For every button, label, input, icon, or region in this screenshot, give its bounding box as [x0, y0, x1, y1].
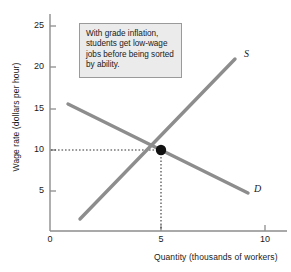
y-tick-label-20: 20: [22, 61, 44, 71]
y-tick-label-5: 5: [22, 185, 44, 195]
supply-curve-label: S: [244, 48, 249, 59]
x-tick-label-10: 10: [253, 234, 277, 244]
annotation-box: With grade inflation, students get low-w…: [79, 23, 182, 78]
y-tick-label-25: 25: [22, 20, 44, 30]
x-tick-label-5: 5: [149, 234, 173, 244]
demand-curve-label: D: [254, 183, 261, 194]
y-tick-label-10: 10: [22, 144, 44, 154]
y-tick-marks: [50, 26, 56, 191]
x-tick-label-0: 0: [38, 234, 62, 244]
y-tick-label-15: 15: [22, 103, 44, 113]
equilibrium-point: [156, 145, 166, 155]
chart-figure: 25 20 15 10 5 0 5 10 Wage rate (dollars …: [0, 0, 291, 272]
supply-curve: [80, 59, 235, 219]
x-axis-title: Quantity (thousands of workers): [154, 252, 278, 262]
y-axis-title: Wage rate (dollars per hour): [11, 57, 21, 177]
x-tick-marks: [161, 225, 265, 231]
annotation-text: With grade inflation, students get low-w…: [86, 29, 175, 71]
